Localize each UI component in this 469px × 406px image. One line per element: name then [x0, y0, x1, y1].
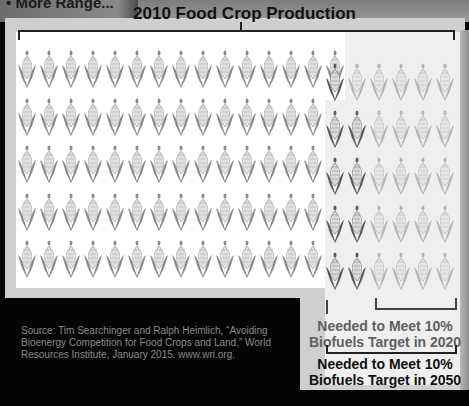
corn-icon: [259, 193, 279, 233]
corn-icon: [391, 252, 411, 292]
corn-icon: [193, 98, 213, 138]
corn-icon: [413, 252, 433, 292]
corn-icon: [61, 98, 81, 138]
corn-icon: [215, 50, 235, 90]
chart-title: 2010 Food Crop Production: [0, 4, 469, 24]
corn-icon: [413, 205, 433, 245]
bracket-2020-left-tick: [326, 300, 328, 314]
corn-icon: [281, 50, 301, 90]
corn-icon: [127, 193, 147, 233]
corn-icon: [83, 50, 103, 90]
corn-icon: [149, 193, 169, 233]
corn-icon: [39, 145, 59, 185]
corn-icon: [193, 193, 213, 233]
corn-icon: [281, 240, 301, 280]
production-bracket: [18, 30, 455, 40]
corn-icon: [369, 63, 389, 103]
bracket-2050-bottom: [326, 352, 457, 354]
corn-icon: [61, 193, 81, 233]
target-2020-line1: Needed to Meet 10%: [305, 318, 465, 334]
corn-icon: [83, 240, 103, 280]
corn-icon: [105, 98, 125, 138]
corn-icon: [215, 240, 235, 280]
corn-icon: [391, 205, 411, 245]
corn-icon: [303, 193, 323, 233]
corn-icon: [435, 252, 455, 292]
corn-icon: [303, 50, 323, 90]
target-2050-line2: Biofuels Target in 2050: [305, 372, 465, 388]
corn-icon: [127, 50, 147, 90]
corn-icon: [303, 240, 323, 280]
corn-icon: [347, 63, 367, 103]
corn-icon: [171, 193, 191, 233]
corn-icon: [413, 110, 433, 150]
bracket-2020-right: [455, 298, 457, 310]
target-2050-line1: Needed to Meet 10%: [305, 356, 465, 372]
corn-icon: [171, 240, 191, 280]
corn-icon: [105, 240, 125, 280]
corn-icon: [83, 145, 103, 185]
target-2050-label: Needed to Meet 10% Biofuels Target in 20…: [305, 356, 465, 388]
corn-icon: [237, 145, 257, 185]
corn-icon: [369, 252, 389, 292]
corn-icon: [347, 205, 367, 245]
target-2020-line2: Biofuels Target in 2020: [305, 334, 465, 350]
corn-icon: [39, 193, 59, 233]
bracket-2050-right: [455, 345, 457, 354]
corn-icon: [259, 98, 279, 138]
corn-icon: [259, 145, 279, 185]
corn-icon: [325, 205, 345, 245]
target-2020-label: Needed to Meet 10% Biofuels Target in 20…: [305, 318, 465, 350]
corn-icon: [17, 98, 37, 138]
corn-icon: [105, 193, 125, 233]
corn-icon: [435, 110, 455, 150]
corn-icon: [259, 240, 279, 280]
corn-icon: [369, 205, 389, 245]
corn-icon: [435, 205, 455, 245]
corn-icon: [61, 145, 81, 185]
corn-icon: [17, 50, 37, 90]
corn-icon: [347, 110, 367, 150]
corn-icon: [281, 98, 301, 138]
corn-icon: [215, 98, 235, 138]
corn-icon: [61, 240, 81, 280]
corn-icon: [61, 50, 81, 90]
bracket-2020-bottom: [375, 308, 457, 310]
corn-icon: [171, 145, 191, 185]
corn-icon: [281, 145, 301, 185]
corn-icon: [325, 157, 345, 197]
corn-icon: [171, 98, 191, 138]
corn-icon: [39, 50, 59, 90]
corn-icon: [17, 145, 37, 185]
corn-icon: [39, 240, 59, 280]
corn-icon: [149, 240, 169, 280]
corn-icon: [259, 50, 279, 90]
corn-icon: [83, 98, 103, 138]
corn-icon: [105, 50, 125, 90]
corn-icon: [237, 98, 257, 138]
corn-icon: [281, 193, 301, 233]
corn-icon: [391, 63, 411, 103]
corn-icon: [413, 63, 433, 103]
corn-icon: [303, 145, 323, 185]
corn-icon: [193, 145, 213, 185]
corn-icon: [215, 193, 235, 233]
corn-icon: [369, 110, 389, 150]
corn-icon: [171, 50, 191, 90]
corn-icon: [325, 63, 345, 103]
corn-icon: [17, 193, 37, 233]
corn-icon: [149, 98, 169, 138]
corn-icon: [347, 157, 367, 197]
source-citation: Source: Tim Searchinger and Ralph Heimli…: [21, 325, 286, 361]
corn-icon: [83, 193, 103, 233]
corn-icon: [347, 252, 367, 292]
corn-icon: [17, 240, 37, 280]
corn-icon: [303, 98, 323, 138]
corn-icon: [237, 193, 257, 233]
corn-icon: [127, 240, 147, 280]
corn-icon: [149, 50, 169, 90]
corn-icon: [435, 157, 455, 197]
corn-icon: [193, 50, 213, 90]
corn-icon: [325, 110, 345, 150]
corn-icon: [215, 145, 235, 185]
